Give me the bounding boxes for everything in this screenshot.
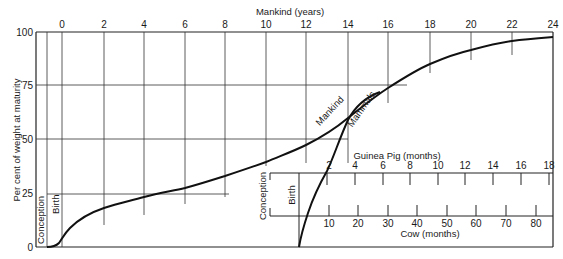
svg-text:70: 70 xyxy=(500,218,512,229)
svg-text:4: 4 xyxy=(352,160,358,171)
svg-text:16: 16 xyxy=(382,19,394,30)
cow-axis-label: Cow (months) xyxy=(400,228,459,239)
svg-text:18: 18 xyxy=(424,19,436,30)
mammals-curve xyxy=(299,92,380,247)
svg-text:14: 14 xyxy=(342,19,354,30)
svg-text:30: 30 xyxy=(382,218,394,229)
svg-text:4: 4 xyxy=(141,19,147,30)
svg-text:14: 14 xyxy=(487,160,499,171)
y-axis-label: Per cent of weight at maturity xyxy=(11,78,22,201)
guinea-pig-axis-label: Guinea Pig (months) xyxy=(353,150,440,161)
svg-text:20: 20 xyxy=(352,218,364,229)
y-tick-50: 50 xyxy=(22,134,34,145)
growth-curve-chart: 100 75 50 25 0 Per cent of weight at mat… xyxy=(0,0,563,259)
svg-text:60: 60 xyxy=(470,218,482,229)
plot-frame xyxy=(36,32,553,247)
svg-text:10: 10 xyxy=(323,218,335,229)
main-birth-label: Birth xyxy=(50,194,61,214)
inset-birth-label: Birth xyxy=(286,185,297,205)
svg-text:12: 12 xyxy=(459,160,471,171)
inset-conception-label: Conception xyxy=(257,172,268,220)
svg-text:18: 18 xyxy=(543,160,555,171)
svg-text:10: 10 xyxy=(260,19,272,30)
y-tick-0: 0 xyxy=(27,242,33,253)
svg-text:24: 24 xyxy=(547,19,559,30)
svg-text:8: 8 xyxy=(407,160,413,171)
svg-text:22: 22 xyxy=(506,19,518,30)
mammals-curve-label: Mammals xyxy=(345,89,378,129)
svg-text:10: 10 xyxy=(432,160,444,171)
y-tick-25: 25 xyxy=(22,188,34,199)
svg-text:6: 6 xyxy=(182,19,188,30)
y-tick-75: 75 xyxy=(22,80,34,91)
top-axis-ticks: 0 2 4 6 8 10 12 14 16 18 20 22 24 xyxy=(59,19,559,30)
svg-text:6: 6 xyxy=(380,160,386,171)
svg-text:8: 8 xyxy=(222,19,228,30)
svg-text:20: 20 xyxy=(465,19,477,30)
top-axis-label: Mankind (years) xyxy=(256,6,324,17)
guinea-pig-ticks: 2 4 6 8 10 12 14 16 18 xyxy=(326,160,555,171)
svg-text:2: 2 xyxy=(101,19,107,30)
vertical-gridlines xyxy=(47,32,512,247)
y-tick-100: 100 xyxy=(16,27,33,38)
svg-text:12: 12 xyxy=(300,19,312,30)
svg-text:80: 80 xyxy=(530,218,542,229)
svg-text:16: 16 xyxy=(515,160,527,171)
svg-text:0: 0 xyxy=(59,19,65,30)
main-conception-label: Conception xyxy=(35,196,46,244)
